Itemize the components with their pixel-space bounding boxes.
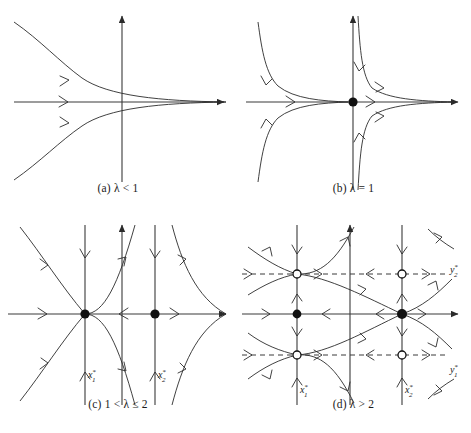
panel-a-plot [0,0,236,200]
fixed-point-x1-c [80,309,89,318]
flow-arrow-ul-c [40,259,48,270]
trajectory-q2-b [258,22,348,102]
flow-arrow-r-down-d [428,338,438,347]
panel-b-plot [236,0,471,200]
trajectory-upper-right-c [172,225,226,314]
panel-b: (b) λ = 1 [236,0,471,200]
panel-c-plot: x*1 x*2 [0,215,236,415]
separatrix-in-upper-left-c [20,227,85,314]
flow-arrow-ll-in-d [262,370,272,379]
fixed-point-x1-d [293,310,302,319]
label-y2-d: y*2 [449,263,458,279]
flow-arrow-ul-out-d [340,237,350,246]
separatrix-ul-in2-d [248,274,297,295]
flow-arrow-lower-a [60,117,69,127]
flow-arrow-ll-c [40,358,48,369]
caption-d: (d) λ > 2 [236,398,471,410]
fixed-point-origin-b [348,97,357,106]
trajectory-lower-right-c [172,314,226,405]
corner-curve-top-right-d [428,229,454,249]
flow-arrow-q2-b [261,76,272,85]
separatrix-r-out-up-d [402,279,452,314]
flow-arrow-r-up-d [428,281,438,290]
fixed-point-x2-y2-d [398,270,406,278]
fixed-point-x2-d [397,309,407,319]
separatrix-out-lower-c [85,314,135,405]
panel-d-plot: x*1 x*2 y*2 y*1 [236,215,471,415]
trajectory-lower-a [14,102,226,180]
fixed-point-x1-y2-d [293,270,301,278]
label-x2-c: x*2 [157,368,166,384]
trajectory-q3-b [258,102,348,182]
separatrix-in-lower-left-c [20,314,85,401]
flow-arrow-ul-in-d [262,247,272,256]
fixed-point-x2-c [150,309,159,318]
label-y1-d: y*1 [449,363,458,379]
label-x1-d: x*1 [299,383,308,399]
panel-a: (a) λ < 1 [0,0,236,200]
label-x1-c: x*1 [87,368,96,384]
panel-c: x*1 x*2 (c) 1 < λ ≤ 2 [0,215,236,433]
trajectory-q4-b [358,102,454,190]
label-x2-d: x*2 [404,383,413,399]
panel-d: x*1 x*2 y*2 y*1 (d) λ > 2 [236,215,471,433]
flow-arrow-upper-a [60,76,69,86]
flow-arrow-lr-c [178,363,186,373]
separatrix-ll-in-d [248,333,297,355]
trajectory-q1-b [358,16,454,102]
separatrix-ll-in2-d [248,355,297,379]
caption-c: (c) 1 < λ ≤ 2 [0,398,236,410]
flow-arrow-q3-b [261,119,272,128]
separatrix-ul-in-d [248,247,297,274]
separatrix-out-upper-c [85,225,135,314]
caption-b: (b) λ = 1 [236,182,471,194]
separatrix-ul-out-up-d [297,227,354,274]
flow-arrow-q4-lower-b [354,133,365,142]
separatrix-r-out-down-d [402,314,452,349]
flow-arrow-q1-upper-b [354,62,365,71]
caption-a: (a) λ < 1 [0,182,236,194]
trajectory-upper-a [14,22,226,102]
corner-curve-bottom-right-d [428,379,454,399]
fixed-point-x2-y1-d [398,351,406,359]
phase-portrait-figure: (a) λ < 1 (b) λ = 1 [0,0,471,433]
fixed-point-x1-y1-d [293,351,301,359]
